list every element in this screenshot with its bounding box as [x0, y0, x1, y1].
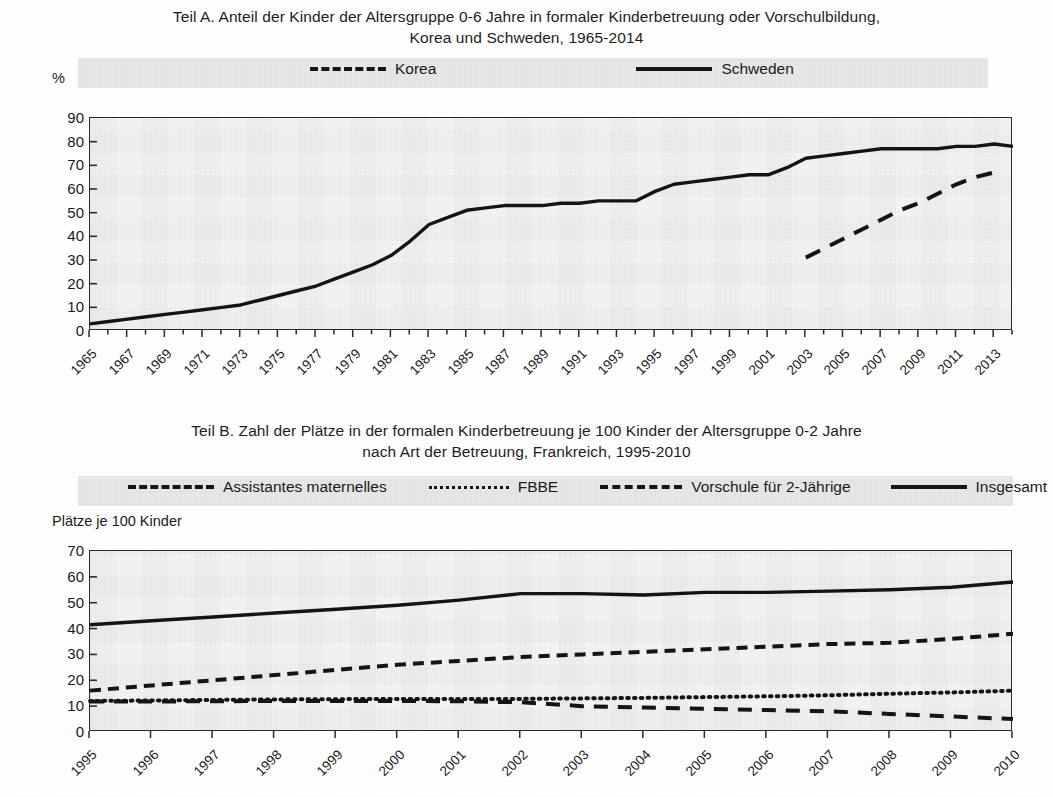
series-line-assistantes-maternelles: [90, 634, 1013, 691]
series-line-korea: [806, 172, 994, 257]
xtick-label: 1987: [471, 346, 514, 389]
teil-b-legend: Assistantes maternelles FBBE Vorschule f…: [128, 478, 1047, 496]
teil-a-legend: Korea Schweden: [310, 60, 794, 78]
ytick-b-60: 60: [8, 567, 84, 584]
teil-b-x-ticks: [0, 731, 1053, 745]
teil-a-title-line2: Korea und Schweden, 1965-2014: [0, 27, 1053, 48]
series-line-schweden: [90, 144, 1013, 324]
teil-b-title-line2: nach Art der Betreuung, Frankreich, 1995…: [0, 441, 1053, 462]
legend-label-schweden: Schweden: [721, 60, 793, 78]
series-line-vorschule-f-r-2-j-hrige: [90, 701, 1013, 719]
schweden-line-swatch-icon: [636, 67, 712, 71]
xtick-label: 1995: [56, 747, 99, 790]
legend-item-vorschule: Vorschule für 2-Jährige: [600, 478, 850, 496]
assistantes-maternelles-line-swatch-icon: [128, 485, 214, 489]
xtick-label: 2011: [923, 346, 966, 389]
legend-label-assistantes-maternelles: Assistantes maternelles: [223, 478, 387, 496]
legend-label-insgesamt: Insgesamt: [976, 478, 1048, 496]
ytick-a-70: 70: [8, 156, 84, 173]
xtick-label: 1967: [94, 346, 137, 389]
teil-a-y-unit: %: [52, 70, 65, 86]
legend-label-fbbe: FBBE: [518, 478, 558, 496]
ytick-b-40: 40: [8, 619, 84, 636]
ytick-b-20: 20: [8, 671, 84, 688]
ytick-b-70: 70: [8, 542, 84, 559]
xtick-label: 2003: [549, 747, 592, 790]
teil-b-plot-area: [89, 550, 1012, 731]
teil-a-title: Teil A. Anteil der Kinder der Altersgrup…: [0, 0, 1053, 48]
xtick-label: 1981: [358, 346, 401, 389]
xtick-label: 1991: [546, 346, 589, 389]
ytick-a-90: 90: [8, 109, 84, 126]
xtick-label: 2002: [487, 747, 530, 790]
panel-teil-a: Teil A. Anteil der Kinder der Altersgrup…: [0, 0, 1053, 48]
teil-b-x-labels: 1995199619971998199920002001200220032004…: [0, 745, 1053, 797]
ytick-a-20: 20: [8, 274, 84, 291]
series-line-insgesamt: [90, 582, 1013, 625]
ytick-a-10: 10: [8, 298, 84, 315]
korea-line-swatch-icon: [310, 67, 386, 71]
xtick-label: 2013: [961, 346, 1004, 389]
xtick-label: 2001: [426, 747, 469, 790]
legend-label-korea: Korea: [395, 60, 436, 78]
xtick-label: 1997: [659, 346, 702, 389]
xtick-label: 1983: [396, 346, 439, 389]
fbbe-line-swatch-icon: [429, 486, 509, 489]
ytick-a-40: 40: [8, 227, 84, 244]
legend-item-insgesamt: Insgesamt: [891, 478, 1048, 496]
xtick-label: 1995: [622, 346, 665, 389]
teil-a-x-labels: 1965196719691971197319751977197919811983…: [0, 344, 1053, 404]
xtick-label: 2001: [735, 346, 778, 389]
teil-b-title: Teil B. Zahl der Plätze in der formalen …: [0, 418, 1053, 462]
xtick-label: 1996: [118, 747, 161, 790]
teil-a-series-canvas: [90, 118, 1013, 331]
legend-label-vorschule: Vorschule für 2-Jährige: [691, 478, 850, 496]
xtick-label: 2003: [772, 346, 815, 389]
insgesamt-line-swatch-icon: [891, 485, 967, 489]
xtick-label: 2007: [795, 747, 838, 790]
ytick-a-30: 30: [8, 251, 84, 268]
teil-b-title-line1: Teil B. Zahl der Plätze in der formalen …: [0, 420, 1053, 441]
xtick-label: 1965: [56, 346, 99, 389]
xtick-label: 2005: [672, 747, 715, 790]
xtick-label: 2010: [979, 747, 1022, 790]
teil-b-y-axis: 70 60 50 40 30 20 10 0: [0, 418, 84, 748]
xtick-label: 2008: [856, 747, 899, 790]
xtick-label: 2007: [848, 346, 891, 389]
xtick-label: 1975: [245, 346, 288, 389]
teil-b-y-unit: Plätze je 100 Kinder: [52, 513, 182, 529]
xtick-label: 2000: [364, 747, 407, 790]
xtick-label: 1999: [303, 747, 346, 790]
xtick-label: 1998: [241, 747, 284, 790]
xtick-label: 1985: [433, 346, 476, 389]
legend-item-assistantes-maternelles: Assistantes maternelles: [128, 478, 387, 496]
xtick-label: 2009: [918, 747, 961, 790]
xtick-label: 1979: [320, 346, 363, 389]
y-tick-group: [90, 577, 97, 706]
teil-a-title-line1: Teil A. Anteil der Kinder der Altersgrup…: [0, 6, 1053, 27]
xtick-label: 1997: [180, 747, 223, 790]
ytick-b-30: 30: [8, 645, 84, 662]
xtick-label: 1969: [132, 346, 175, 389]
xtick-label: 1973: [207, 346, 250, 389]
vorschule-line-swatch-icon: [600, 485, 682, 489]
xtick-label: 2005: [810, 346, 853, 389]
xtick-label: 1977: [283, 346, 326, 389]
ytick-b-50: 50: [8, 593, 84, 610]
ytick-a-50: 50: [8, 203, 84, 220]
teil-a-plot-area: [89, 117, 1012, 330]
teil-a-x-ticks: [0, 330, 1053, 344]
series-line-fbbe: [90, 691, 1013, 701]
legend-item-korea: Korea: [310, 60, 436, 78]
xtick-label: 1989: [509, 346, 552, 389]
panel-teil-b: Teil B. Zahl der Plätze in der formalen …: [0, 418, 1053, 462]
xtick-label: 1971: [169, 346, 212, 389]
xtick-label: 1993: [584, 346, 627, 389]
xtick-label: 2009: [885, 346, 928, 389]
y-tick-group: [90, 142, 97, 308]
ytick-b-10: 10: [8, 697, 84, 714]
xtick-label: 2006: [733, 747, 776, 790]
legend-item-fbbe: FBBE: [429, 478, 558, 496]
teil-b-series-canvas: [90, 551, 1013, 732]
ytick-a-80: 80: [8, 132, 84, 149]
